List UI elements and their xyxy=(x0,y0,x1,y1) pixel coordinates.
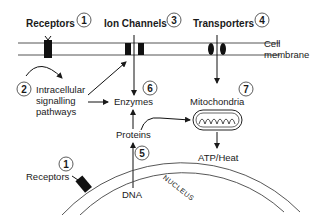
nucleus-label: NUCLEUS xyxy=(162,174,195,202)
membrane-receptor-icon xyxy=(44,36,52,58)
badge-4: 4 xyxy=(255,13,269,27)
intracellular-label-2: signalling xyxy=(36,95,76,106)
intracellular-label-3: pathways xyxy=(36,106,76,117)
badge-1-top: 1 xyxy=(77,13,91,27)
diagram-canvas: Receptors Ion Channels Transporters 1 3 … xyxy=(0,0,322,215)
atp-heat-label: ATP/Heat xyxy=(198,152,239,163)
mitochondrion-icon xyxy=(193,110,242,130)
transporters-label: Transporters xyxy=(193,18,255,29)
nuclear-receptor-icon xyxy=(72,175,92,192)
badge-5: 5 xyxy=(135,146,149,160)
receptors-label: Receptors xyxy=(26,18,75,29)
intracellular-label-1: Intracellular xyxy=(36,84,85,95)
svg-text:1: 1 xyxy=(81,15,87,26)
cell-membrane-label-2: membrane xyxy=(264,49,309,60)
svg-text:4: 4 xyxy=(259,15,265,26)
badge-2: 2 xyxy=(17,82,31,96)
enzymes-label: Enzymes xyxy=(114,96,153,107)
svg-text:3: 3 xyxy=(171,15,177,26)
svg-text:7: 7 xyxy=(243,84,249,95)
proteins-label: Proteins xyxy=(116,129,151,140)
svg-text:1: 1 xyxy=(63,159,69,170)
cell-membrane-label-1: Cell xyxy=(264,38,280,49)
signal-to-ion-channel-arrow xyxy=(88,62,126,95)
badge-7: 7 xyxy=(239,82,253,96)
receptor-signal-arrow xyxy=(26,66,62,78)
badge-6: 6 xyxy=(143,81,157,95)
svg-text:2: 2 xyxy=(21,84,27,95)
nuclear-receptors-label: Receptors xyxy=(26,171,70,182)
svg-text:5: 5 xyxy=(139,148,145,159)
ion-channels-label: Ion Channels xyxy=(104,18,167,29)
badge-1-nucleus: 1 xyxy=(59,157,73,171)
svg-text:6: 6 xyxy=(147,83,153,94)
mitochondria-label: Mitochondria xyxy=(190,96,245,107)
cell-membrane xyxy=(18,43,280,55)
badge-3: 3 xyxy=(167,13,181,27)
dna-label: DNA xyxy=(122,189,143,200)
